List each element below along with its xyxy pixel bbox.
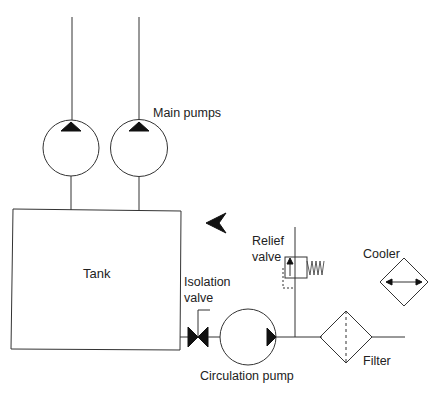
label-isolation-line2: valve [184, 291, 213, 306]
label-filter: Filter [363, 354, 391, 369]
label-relief-line2: valve [252, 250, 281, 265]
label-cooler: Cooler [363, 247, 400, 262]
main-pump-1 [43, 17, 99, 210]
circulation-pump [220, 309, 322, 365]
label-isolation-line1: Isolation [184, 275, 231, 290]
pointer-arrow-icon [206, 213, 226, 233]
hydraulic-diagram: Main pumps Tank Isolation valve Relief v… [0, 0, 444, 395]
pump-arrow-icon [267, 328, 276, 346]
pump-arrow-icon [129, 122, 149, 131]
cooler [380, 258, 428, 306]
isolation-valve [188, 310, 220, 347]
label-main-pumps: Main pumps [153, 106, 221, 121]
pump-arrow-icon [61, 122, 81, 131]
label-circulation-pump: Circulation pump [200, 369, 294, 384]
diagram-svg [0, 0, 444, 395]
label-tank: Tank [83, 266, 110, 281]
label-relief-line1: Relief [252, 234, 284, 249]
relief-valve [283, 257, 324, 288]
